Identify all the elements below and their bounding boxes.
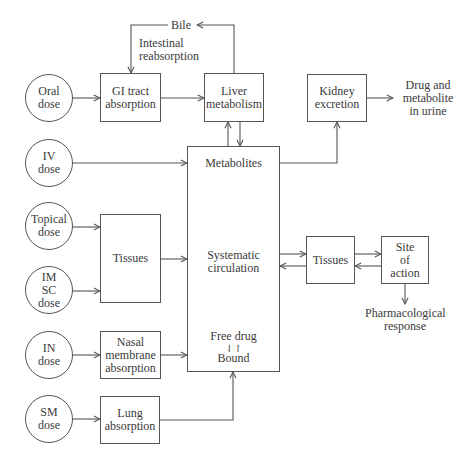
metabolites-label: Metabolites: [188, 157, 279, 170]
systematic-circulation-box: Metabolites Systematic circulation Free …: [187, 146, 280, 372]
sm-dose-node: SM dose: [25, 395, 73, 443]
tissues-left-box: Tissues: [100, 214, 161, 303]
lung-absorption-box: Lung absorption: [100, 396, 160, 444]
gi-tract-absorption-box: GI tract absorption: [100, 73, 161, 122]
oral-dose-node: Oral dose: [25, 74, 73, 122]
tissues-right-box: Tissues: [306, 236, 355, 284]
iv-dose-node: IV dose: [25, 139, 73, 187]
circulation-label: Systematic circulation: [188, 249, 279, 275]
arrow-metabolites-to-kidney: [280, 122, 337, 163]
kidney-excretion-box: Kidney excretion: [307, 74, 367, 122]
pharmacological-response-label: Pharmacological response: [365, 307, 445, 333]
in-dose-node: IN dose: [25, 331, 73, 379]
arrow-liver-to-bile: [197, 25, 234, 73]
imsc-dose-node: IM SC dose: [25, 266, 73, 314]
urine-output-label: Drug and metabolite in urine: [394, 79, 462, 118]
bile-label: Bile: [171, 19, 191, 32]
topical-dose-node: Topical dose: [25, 202, 73, 250]
nasal-membrane-absorption-box: Nasal membrane absorption: [100, 331, 161, 379]
liver-metabolism-box: Liver metabolism: [204, 73, 264, 122]
arrow-lung-to-central: [160, 372, 233, 420]
site-of-action-box: Site of action: [381, 236, 429, 284]
intestinal-reabsorption-label: Intestinal reabsorption: [139, 37, 199, 63]
bound-label: Bound: [188, 352, 279, 365]
